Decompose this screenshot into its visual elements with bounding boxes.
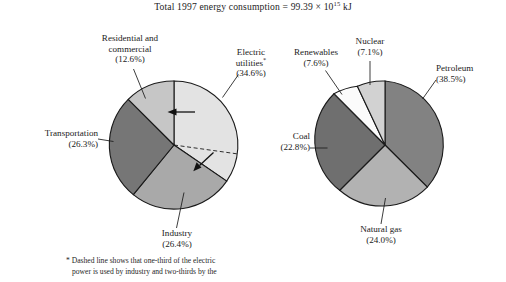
footnote-asterisk: *	[66, 256, 70, 265]
label-natural-gas-value: (24.0%)	[336, 235, 426, 246]
label-renewables-value: (7.6%)	[272, 58, 360, 69]
label-coal-value: (22.8%)	[248, 142, 310, 153]
leader-line-renewables	[326, 71, 343, 95]
label-transportation-line1: Transportation	[0, 128, 98, 139]
footnote-marker-electric-utilities: *	[263, 56, 266, 63]
label-petroleum-value: (38.5%)	[436, 74, 506, 85]
footnote-line2: power is used by industry and two-thirds…	[66, 266, 396, 277]
label-industry-line1: Industry	[131, 228, 223, 239]
label-nuclear-line1: Nuclear	[333, 36, 407, 47]
energy-consumption-figure: Total 1997 energy consumption = 99.39 × …	[0, 0, 506, 282]
label-residential-commercial-line2: commercial	[60, 44, 200, 55]
label-natural-gas: Natural gas (24.0%)	[336, 224, 426, 245]
pie-chart-source	[310, 61, 443, 224]
label-petroleum-line1: Petroleum	[436, 63, 506, 74]
label-residential-commercial-value: (12.6%)	[60, 54, 200, 65]
label-coal: Coal (22.8%)	[248, 131, 310, 152]
leader-line-petroleum	[423, 80, 437, 99]
label-residential-commercial-line1: Residential and	[60, 33, 200, 44]
label-transportation: Transportation (26.3%)	[0, 128, 98, 149]
footnote-line1: * Dashed line shows that one-third of th…	[66, 255, 396, 266]
label-industry: Industry (26.4%)	[131, 228, 223, 249]
label-renewables: Renewables (7.6%)	[272, 47, 360, 68]
figure-footnote: * Dashed line shows that one-third of th…	[66, 255, 396, 277]
label-petroleum: Petroleum (38.5%)	[436, 63, 506, 84]
pie-chart-sector	[98, 69, 239, 228]
label-industry-value: (26.4%)	[131, 239, 223, 250]
label-natural-gas-line1: Natural gas	[336, 224, 426, 235]
label-renewables-line1: Renewables	[272, 47, 360, 58]
label-residential-commercial: Residential and commercial (12.6%)	[60, 33, 200, 65]
label-coal-line1: Coal	[248, 131, 310, 142]
label-electric-utilities-value: (34.6%)	[208, 68, 294, 79]
label-transportation-value: (26.3%)	[0, 139, 98, 150]
